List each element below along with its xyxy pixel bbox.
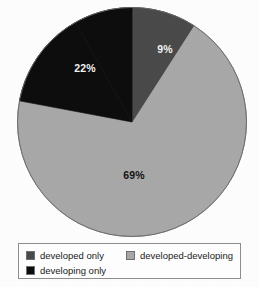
legend-swatch-icon	[26, 266, 35, 275]
chart-legend: developed only developed-developing deve…	[18, 243, 241, 279]
pie-chart-figure: 9% 22% 69% developed only developed-deve…	[0, 0, 259, 287]
pie-label-developed-developing: 69%	[123, 169, 145, 181]
pie-label-developed-only: 9%	[157, 43, 173, 55]
legend-label: developed-developing	[140, 250, 233, 261]
pie-chart-svg: 9% 22% 69%	[17, 7, 247, 237]
pie-chart: 9% 22% 69%	[17, 7, 247, 237]
legend-label: developing only	[40, 265, 106, 276]
legend-item-developed-only[interactable]: developed only	[26, 250, 126, 261]
legend-swatch-icon	[126, 251, 135, 260]
legend-row: developed only developed-developing	[26, 248, 234, 262]
legend-swatch-icon	[26, 251, 35, 260]
pie-label-developing-only: 22%	[74, 62, 96, 74]
legend-item-developed-developing[interactable]: developed-developing	[126, 250, 233, 261]
legend-item-developing-only[interactable]: developing only	[26, 265, 126, 276]
legend-row: developing only	[26, 263, 234, 277]
legend-label: developed only	[40, 250, 104, 261]
